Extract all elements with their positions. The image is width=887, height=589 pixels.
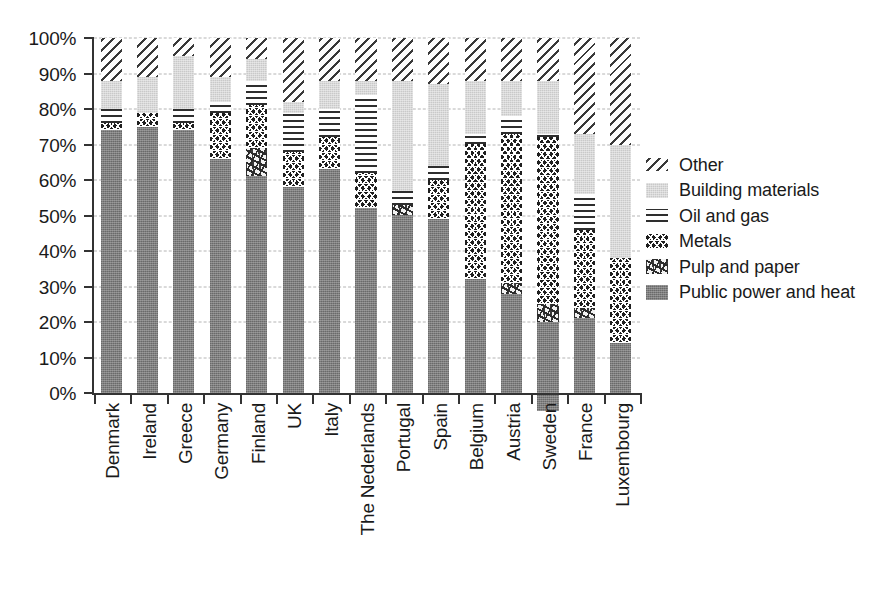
stacked-bar[interactable] bbox=[173, 38, 194, 393]
y-axis-tick-mark bbox=[84, 321, 94, 323]
x-axis-tick-mark bbox=[203, 395, 205, 404]
bar-segment bbox=[574, 194, 595, 230]
bar-segment bbox=[173, 123, 194, 130]
bar-slot bbox=[422, 38, 458, 393]
y-axis-tick-mark bbox=[84, 250, 94, 252]
x-label-slot: Belgium bbox=[458, 393, 494, 589]
stacked-bar[interactable] bbox=[392, 38, 413, 393]
bar-segment bbox=[283, 38, 304, 102]
stacked-bar[interactable] bbox=[428, 38, 449, 393]
bar-segment bbox=[283, 113, 304, 152]
bar-segment bbox=[101, 38, 122, 81]
bar-series-group bbox=[94, 38, 640, 393]
bar-segment bbox=[355, 95, 376, 173]
bar-segment bbox=[101, 81, 122, 109]
x-label-slot: France bbox=[567, 393, 603, 589]
x-axis-tick-mark bbox=[130, 395, 132, 404]
bar-segment bbox=[428, 219, 449, 393]
bar-segment bbox=[101, 123, 122, 130]
x-axis-tick-label: Portugal bbox=[394, 403, 413, 472]
x-axis-tick-mark bbox=[640, 395, 642, 404]
bar-slot bbox=[385, 38, 421, 393]
stacked-bar[interactable] bbox=[137, 38, 158, 393]
bar-segment bbox=[610, 145, 631, 259]
bar-segment bbox=[319, 38, 340, 81]
stacked-bar[interactable] bbox=[246, 38, 267, 393]
bar-segment bbox=[392, 38, 413, 81]
legend-item[interactable]: Other bbox=[646, 152, 881, 178]
x-axis-tick-mark bbox=[276, 395, 278, 404]
stacked-bar[interactable] bbox=[610, 38, 631, 393]
y-axis-tick-label: 20% bbox=[39, 313, 76, 332]
bar-segment bbox=[465, 134, 486, 145]
bar-segment bbox=[137, 77, 158, 113]
bar-segment bbox=[610, 38, 631, 145]
legend-item[interactable]: Oil and gas bbox=[646, 203, 881, 229]
y-axis-tick-label: 50% bbox=[39, 206, 76, 225]
bar-segment bbox=[246, 176, 267, 393]
stacked-bar[interactable] bbox=[574, 38, 595, 393]
x-axis-tick-label: UK bbox=[285, 403, 304, 429]
y-axis-tick-mark bbox=[84, 215, 94, 217]
y-axis-tick-label: 40% bbox=[39, 242, 76, 261]
bar-segment bbox=[210, 113, 231, 159]
x-axis-tick-label: Spain bbox=[430, 403, 449, 451]
x-label-slot: Portugal bbox=[385, 393, 421, 589]
bar-segment bbox=[173, 56, 194, 109]
stacked-bar[interactable] bbox=[537, 38, 558, 393]
bar-segment bbox=[428, 180, 449, 219]
x-axis-tick-mark bbox=[458, 395, 460, 404]
bar-segment bbox=[101, 130, 122, 393]
bar-segment bbox=[355, 81, 376, 95]
x-axis-tick-label: Ireland bbox=[139, 403, 158, 460]
y-axis-tick-mark bbox=[84, 144, 94, 146]
bar-segment bbox=[537, 38, 558, 81]
legend-item[interactable]: Metals bbox=[646, 229, 881, 255]
bar-segment bbox=[137, 113, 158, 127]
x-axis-tick-mark bbox=[385, 395, 387, 404]
x-axis-tick-label: The Nederlands bbox=[358, 403, 377, 535]
bar-slot bbox=[240, 38, 276, 393]
x-axis-tick-label: Greece bbox=[176, 403, 195, 464]
x-label-slot: Greece bbox=[167, 393, 203, 589]
bar-slot bbox=[276, 38, 312, 393]
bar-segment bbox=[210, 77, 231, 102]
bar-segment bbox=[501, 38, 522, 81]
bar-segment bbox=[574, 38, 595, 134]
x-axis-tick-mark bbox=[531, 395, 533, 404]
legend-item[interactable]: Public power and heat bbox=[646, 280, 881, 306]
bar-slot bbox=[167, 38, 203, 393]
bar-slot bbox=[130, 38, 166, 393]
x-axis-tick-mark bbox=[422, 395, 424, 404]
x-axis-tick-mark bbox=[312, 395, 314, 404]
stacked-bar[interactable] bbox=[319, 38, 340, 393]
bar-segment bbox=[574, 134, 595, 194]
stacked-bar[interactable] bbox=[283, 38, 304, 393]
y-axis-tick-label: 60% bbox=[39, 171, 76, 190]
stacked-bar[interactable] bbox=[355, 38, 376, 393]
bar-segment bbox=[392, 81, 413, 191]
stacked-bar[interactable] bbox=[210, 38, 231, 393]
x-label-slot: The Nederlands bbox=[349, 393, 385, 589]
bar-segment bbox=[319, 81, 340, 109]
legend-item-label: Building materials bbox=[679, 181, 819, 199]
x-axis-tick-mark bbox=[94, 395, 96, 404]
bar-segment bbox=[428, 166, 449, 180]
x-axis-tick-mark bbox=[494, 395, 496, 404]
stacked-bar[interactable] bbox=[101, 38, 122, 393]
x-label-slot: Spain bbox=[422, 393, 458, 589]
stacked-bar[interactable] bbox=[501, 38, 522, 393]
bar-segment bbox=[210, 38, 231, 77]
bar-segment bbox=[501, 81, 522, 117]
y-axis-tick-mark bbox=[84, 179, 94, 181]
x-axis-tick-label: Germany bbox=[212, 403, 231, 480]
x-label-slot: Sweden bbox=[531, 393, 567, 589]
bar-segment bbox=[355, 173, 376, 209]
legend-item[interactable]: Pulp and paper bbox=[646, 254, 881, 280]
bar-segment bbox=[465, 38, 486, 81]
chart-legend: OtherBuilding materialsOil and gasMetals… bbox=[646, 152, 881, 305]
stacked-bar[interactable] bbox=[465, 38, 486, 393]
bar-segment bbox=[501, 283, 522, 294]
legend-item[interactable]: Building materials bbox=[646, 178, 881, 204]
legend-swatch-icon bbox=[646, 259, 668, 274]
